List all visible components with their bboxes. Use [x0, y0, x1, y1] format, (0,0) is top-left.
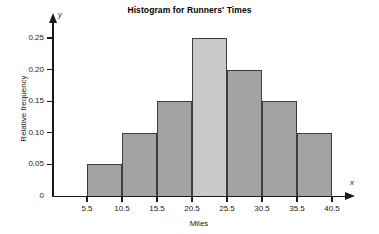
x-axis-tick-label: 25.5	[207, 204, 247, 213]
histogram-bar	[297, 133, 332, 196]
y-axis-title: Relative frequency	[19, 39, 28, 179]
x-axis-tick	[296, 196, 297, 202]
y-axis-line	[52, 22, 54, 197]
y-axis-tick-label: 0	[3, 191, 47, 200]
histogram-bar	[157, 101, 192, 196]
y-axis-arrow-icon	[49, 13, 57, 23]
x-axis-letter: x	[350, 178, 354, 187]
x-axis-tick-label: 5.5	[67, 204, 107, 213]
x-axis-tick-label: 10.5	[102, 204, 142, 213]
x-axis-tick-label: 15.5	[137, 204, 177, 213]
y-axis-tick	[47, 164, 54, 165]
x-axis-tick	[86, 196, 87, 202]
x-axis-tick	[226, 196, 227, 202]
histogram-bar	[262, 101, 297, 196]
y-axis-tick	[47, 132, 54, 133]
x-axis-tick-label: 20.5	[172, 204, 212, 213]
histogram-bar	[227, 70, 262, 196]
y-axis-tick	[47, 37, 54, 38]
histogram-figure: Histogram for Runners' Times y x 00.050.…	[0, 0, 379, 234]
x-axis-tick	[156, 196, 157, 202]
x-axis-tick	[261, 196, 262, 202]
histogram-bar	[122, 133, 157, 196]
plot-area: y x 00.050.100.150.200.25 5.510.515.520.…	[0, 0, 379, 234]
x-axis-tick	[331, 196, 332, 202]
x-axis-tick-label: 40.5	[312, 204, 352, 213]
histogram-bar	[192, 38, 227, 196]
x-axis-title: Miles	[52, 219, 346, 228]
x-axis-tick-label: 35.5	[277, 204, 317, 213]
y-axis-tick	[47, 69, 54, 70]
x-axis-line	[52, 196, 346, 198]
x-axis-tick	[191, 196, 192, 202]
x-axis-tick	[121, 196, 122, 202]
y-axis-tick	[47, 101, 54, 102]
y-axis-letter: y	[58, 10, 62, 19]
x-axis-tick-label: 30.5	[242, 204, 282, 213]
x-axis-arrow-icon	[345, 192, 355, 200]
histogram-bar	[87, 164, 122, 196]
